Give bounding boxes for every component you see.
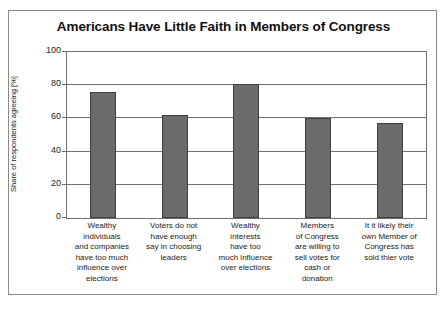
x-axis-label-line: and companies: [68, 242, 136, 253]
x-axis-label-line: sell votes for: [283, 253, 351, 264]
x-axis-label: Membersof Congressare willing tosell vot…: [283, 221, 351, 284]
x-axis-label-line: cash or: [283, 263, 351, 274]
y-tick-label-20: 20: [27, 178, 61, 188]
chart-title: Americans Have Little Faith in Members o…: [9, 19, 438, 34]
x-axis-label-line: are willing to: [283, 242, 351, 253]
x-axis-label-line: Congress has: [355, 242, 423, 253]
y-tick-label-100: 100: [27, 45, 61, 55]
x-axis-label-line: Wealthy: [68, 221, 136, 232]
y-axis-title: Share of respondents agreeing [%]: [7, 51, 21, 217]
bar: [377, 123, 403, 218]
x-axis-label: Wealthyinterestshave toomuch influenceov…: [211, 221, 279, 274]
x-axis-label: Wealthyindividualsand companieshave too …: [68, 221, 136, 284]
x-axis-label-line: have too: [211, 242, 279, 253]
x-axis-label-line: Wealthy: [211, 221, 279, 232]
x-axis-label-line: interests: [211, 232, 279, 243]
bar: [305, 118, 331, 218]
y-tick-label-60: 60: [27, 111, 61, 121]
bar: [162, 115, 188, 218]
x-axis-label-line: influence over: [68, 263, 136, 274]
x-axis-label-line: of Congress: [283, 232, 351, 243]
y-tick-label-80: 80: [27, 78, 61, 88]
x-axis-label-line: say in choosing: [140, 242, 208, 253]
x-axis-label: Voters do nothave enoughsay in choosingl…: [140, 221, 208, 263]
bars-group: [67, 52, 426, 218]
x-axis-label-line: It it likely their: [355, 221, 423, 232]
y-tick-label-40: 40: [27, 145, 61, 155]
x-axis-label-line: Voters do not: [140, 221, 208, 232]
bar: [233, 84, 259, 218]
x-axis-label-line: donation: [283, 274, 351, 285]
plot-area: [66, 51, 427, 219]
x-axis-label-line: leaders: [140, 253, 208, 264]
x-axis-label-line: Members: [283, 221, 351, 232]
x-axis-label-line: much influence: [211, 253, 279, 264]
y-tick-label-0: 0: [27, 211, 61, 221]
x-axis-label-line: own Member of: [355, 232, 423, 243]
x-axis-label: It it likely theirown Member ofCongress …: [355, 221, 423, 263]
x-axis-label-line: sold thier vote: [355, 253, 423, 264]
x-axis-label-line: have enough: [140, 232, 208, 243]
x-axis-label-line: have too much: [68, 253, 136, 264]
x-axis-label-line: over elections: [211, 263, 279, 274]
x-axis-label-line: elections: [68, 274, 136, 285]
bar: [90, 92, 116, 218]
x-axis-label-line: individuals: [68, 232, 136, 243]
chart-figure: Americans Have Little Faith in Members o…: [8, 10, 437, 295]
x-axis-category-labels: Wealthyindividualsand companieshave too …: [66, 221, 425, 284]
